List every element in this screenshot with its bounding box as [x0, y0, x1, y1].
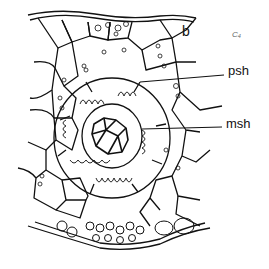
psh-leader-line — [140, 75, 224, 82]
psh-label: psh — [228, 64, 249, 77]
corner-mark: C₄ — [232, 31, 241, 39]
abaxial-small-cells — [57, 218, 194, 244]
panel-letter: b — [182, 24, 190, 38]
msh-label: msh — [226, 117, 251, 130]
diagram-canvas: b C₄ psh msh — [0, 0, 269, 269]
vascular-tissue — [92, 118, 128, 154]
parenchyma-sheath-ring — [54, 78, 170, 198]
leaf-cross-section — [0, 0, 269, 269]
mestome-sheath-ring — [82, 104, 142, 168]
upper-epidermis — [28, 11, 196, 18]
mesophyll-cells — [18, 18, 222, 226]
msh-leader-line — [142, 127, 222, 129]
